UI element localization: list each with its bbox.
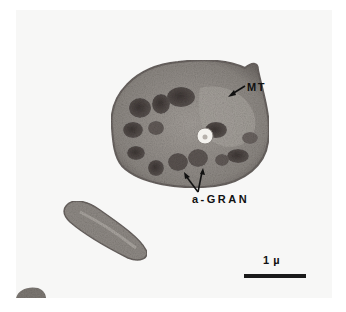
label-alpha-granules: a-GRAN (192, 193, 249, 205)
platelet-elongated (64, 201, 147, 260)
scale-bar (244, 274, 306, 278)
label-microtubules: MT (247, 81, 266, 93)
vesicle (197, 128, 213, 144)
scale-bar-label: 1 µ (263, 254, 280, 266)
platelet-partial (16, 287, 46, 298)
micrograph-svg (0, 0, 346, 312)
